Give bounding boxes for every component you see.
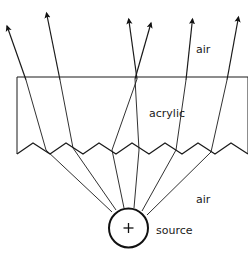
label-air-bottom: air	[196, 193, 211, 206]
source-marker	[109, 209, 148, 248]
ray-1-inside-path	[26, 80, 112, 212]
optical-ray-diagram: air acrylic air source	[0, 0, 248, 264]
diagram-canvas: air acrylic air source	[0, 0, 248, 264]
ray-3-exit-arrow	[129, 19, 137, 79]
ray-4-exit-arrow	[135, 23, 151, 79]
ray-6-exit-arrow	[227, 17, 239, 80]
ray-4-inside-path	[134, 79, 139, 208]
ray-1-exit-arrow	[7, 26, 26, 80]
ray-5-inside-path	[142, 80, 186, 211]
label-source: source	[156, 224, 193, 237]
label-acrylic: acrylic	[149, 107, 185, 120]
slab-sawtooth-surface	[17, 143, 248, 154]
ray-3	[112, 19, 137, 208]
ray-2-exit-arrow	[47, 13, 61, 80]
ray-2	[47, 13, 117, 210]
label-air-top: air	[196, 43, 211, 56]
ray-1	[7, 26, 112, 212]
ray-5-exit-arrow	[186, 19, 193, 80]
